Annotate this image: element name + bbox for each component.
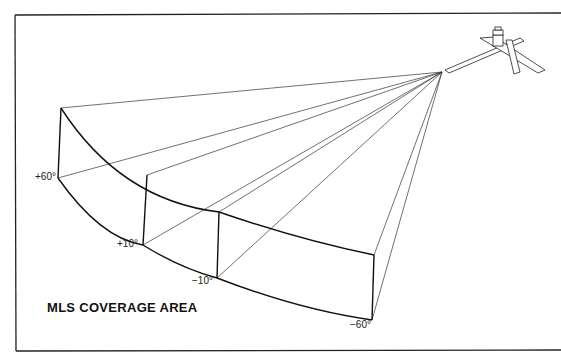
coverage-volume: [58, 108, 374, 320]
angle-label-plus60: +60°: [35, 171, 56, 182]
diagram-title: MLS COVERAGE AREA: [47, 300, 198, 315]
angle-label-plus10: +10°: [117, 238, 138, 249]
angle-label-minus60: −60°: [350, 319, 371, 330]
radial-lines: [58, 72, 442, 320]
angle-label-minus10: −10°: [192, 275, 213, 286]
airport-runway-icon: [445, 27, 545, 74]
